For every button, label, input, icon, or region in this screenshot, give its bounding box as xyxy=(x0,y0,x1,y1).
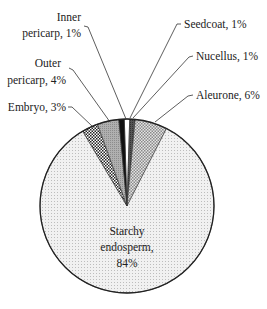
leader-seedcoat xyxy=(130,24,181,118)
leader-embryo xyxy=(68,107,92,126)
label-embryo: Embryo, 3% xyxy=(8,101,67,114)
label-inner-pericarp-line2: pericarp, 1% xyxy=(22,27,81,40)
pie-chart: Inner pericarp, 1% Outer pericarp, 4% Em… xyxy=(0,0,267,309)
label-starchy-line1: Starchy xyxy=(109,225,144,238)
leader-inner-pericarp xyxy=(84,26,126,119)
leader-outer-pericarp xyxy=(69,68,110,122)
label-inner-pericarp-line1: Inner xyxy=(57,11,81,23)
label-outer-pericarp-line2: pericarp, 4% xyxy=(7,74,66,87)
leader-lines xyxy=(68,24,193,126)
leader-aleurone xyxy=(155,95,193,122)
label-aleurone: Aleurone, 6% xyxy=(196,89,260,102)
leader-nucellus xyxy=(133,56,193,118)
label-starchy-line3: 84% xyxy=(116,257,138,269)
label-outer-pericarp-line1: Outer xyxy=(35,57,61,69)
label-nucellus: Nucellus, 1% xyxy=(196,50,258,63)
label-seedcoat: Seedcoat, 1% xyxy=(184,18,247,31)
label-starchy-line2: endosperm, xyxy=(100,241,153,254)
